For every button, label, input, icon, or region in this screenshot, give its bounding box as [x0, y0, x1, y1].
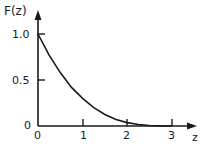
y-axis-label: F(z) [4, 6, 27, 17]
x-axis-label: z [192, 132, 198, 143]
x-tick-label-0: 0 [34, 130, 41, 141]
y-tick-label-0.5: 0.5 [12, 75, 30, 86]
chart-canvas [0, 0, 208, 147]
x-tick-label-3: 3 [168, 130, 175, 141]
x-tick-label-1: 1 [80, 130, 87, 141]
curve-F-of-z [38, 34, 172, 126]
x-tick-label-2: 2 [123, 130, 130, 141]
y-tick-label-0: 0 [24, 120, 31, 131]
y-axis-arrow-icon [35, 10, 42, 20]
y-tick-label-1: 1.0 [12, 29, 30, 40]
x-axis-arrow-icon [187, 123, 197, 130]
